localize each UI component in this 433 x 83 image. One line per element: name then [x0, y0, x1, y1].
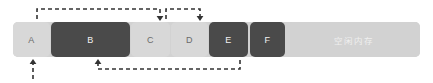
memory-block-c-label: C	[147, 35, 154, 45]
memory-block-b[interactable]: B	[51, 22, 130, 57]
memory-diagram: ABCDEF空闲内存	[0, 0, 433, 83]
arrow-up-into-a-head	[30, 59, 37, 64]
arrow-e-to-b-head	[95, 59, 102, 64]
memory-block-d[interactable]: D	[171, 22, 208, 57]
memory-block-a-label: A	[28, 35, 34, 45]
memory-block-b-label: B	[87, 35, 93, 45]
memory-block-a[interactable]: A	[13, 22, 50, 57]
arrow-c-to-d	[166, 9, 200, 19]
memory-block-c[interactable]: C	[131, 22, 170, 57]
memory-block-d-label: D	[186, 35, 193, 45]
memory-block-e-label: E	[225, 35, 231, 45]
arrow-a-to-c	[37, 9, 160, 19]
memory-block-free-label: 空闲内存	[334, 34, 374, 46]
arrow-e-to-b	[98, 60, 240, 69]
memory-block-f[interactable]: F	[250, 22, 285, 57]
memory-block-free[interactable]: 空闲内存	[287, 22, 420, 57]
memory-block-e[interactable]: E	[209, 22, 248, 57]
arrow-c-to-d-head	[197, 16, 204, 21]
memory-block-f-label: F	[265, 35, 271, 45]
arrow-a-to-c-head	[157, 16, 164, 21]
